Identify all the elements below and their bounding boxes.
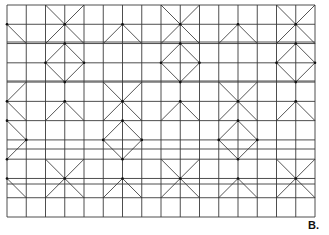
node-dot bbox=[294, 100, 297, 103]
diagonal-line bbox=[180, 63, 199, 82]
diagonal-line bbox=[277, 44, 296, 63]
diagonal-line bbox=[123, 121, 142, 140]
node-dot bbox=[294, 42, 297, 45]
node-dot bbox=[121, 177, 124, 180]
diagonal-line bbox=[219, 24, 238, 43]
diagonal-line bbox=[103, 178, 122, 197]
node-dot bbox=[6, 23, 9, 26]
node-dot bbox=[63, 100, 66, 103]
diagonal-line bbox=[296, 101, 315, 120]
diagonal-line bbox=[7, 82, 26, 101]
node-dot bbox=[63, 42, 66, 45]
node-dot bbox=[83, 62, 86, 65]
diagonal-line bbox=[65, 44, 84, 63]
tiling-diagram bbox=[0, 0, 329, 235]
node-dot bbox=[217, 139, 220, 142]
diagonal-line bbox=[219, 121, 238, 140]
node-dot bbox=[179, 23, 182, 26]
diagonal-line bbox=[238, 178, 257, 197]
node-dot bbox=[63, 81, 66, 84]
node-dot bbox=[121, 158, 124, 161]
diagonal-line bbox=[123, 140, 142, 159]
diagonal-line bbox=[123, 24, 142, 43]
node-dot bbox=[6, 100, 9, 103]
node-dot bbox=[198, 62, 201, 65]
node-dot bbox=[237, 158, 240, 161]
node-dot bbox=[160, 62, 163, 65]
diagonal-line bbox=[296, 63, 315, 82]
node-dot bbox=[6, 158, 9, 161]
node-dot bbox=[121, 100, 124, 103]
node-dot bbox=[179, 81, 182, 84]
node-dot bbox=[6, 177, 9, 180]
node-dot bbox=[140, 139, 143, 142]
node-dot bbox=[237, 100, 240, 103]
diagonal-line bbox=[219, 178, 238, 197]
node-dot bbox=[294, 23, 297, 26]
node-dot bbox=[179, 42, 182, 45]
node-dot bbox=[121, 23, 124, 26]
node-dot bbox=[63, 23, 66, 26]
diagonal-line bbox=[46, 63, 65, 82]
square-grid bbox=[7, 5, 315, 217]
diagonal-line bbox=[7, 140, 26, 159]
diagonal-line bbox=[238, 24, 257, 43]
node-dot bbox=[6, 119, 9, 122]
diagonal-line bbox=[219, 140, 238, 159]
diagonal-line bbox=[238, 121, 257, 140]
panel-label: B. bbox=[308, 219, 319, 231]
node-dot bbox=[294, 177, 297, 180]
node-dot bbox=[179, 177, 182, 180]
diagonal-line bbox=[103, 24, 122, 43]
node-dot bbox=[25, 139, 28, 142]
diagonal-line bbox=[277, 101, 296, 120]
node-dot bbox=[314, 62, 317, 65]
diagonal-line bbox=[161, 63, 180, 82]
diagonal-line bbox=[180, 101, 199, 120]
diagonal-line bbox=[7, 178, 26, 197]
diagonal-line bbox=[296, 44, 315, 63]
diagonal-line bbox=[277, 63, 296, 82]
node-dot bbox=[256, 139, 259, 142]
node-dot bbox=[275, 62, 278, 65]
diagonal-line bbox=[238, 140, 257, 159]
diagonal-line bbox=[161, 101, 180, 120]
node-dot bbox=[44, 62, 47, 65]
node-dot bbox=[121, 119, 124, 122]
diagonal-line bbox=[65, 63, 84, 82]
diagonal-line bbox=[65, 101, 84, 120]
node-dot bbox=[63, 177, 66, 180]
node-dot bbox=[102, 139, 105, 142]
diagonal-line bbox=[46, 44, 65, 63]
diagonal-line bbox=[103, 140, 122, 159]
node-dot bbox=[237, 177, 240, 180]
diagonal-line bbox=[7, 121, 26, 140]
diagonal-line bbox=[46, 101, 65, 120]
diagonal-line bbox=[103, 121, 122, 140]
diagonal-line bbox=[123, 178, 142, 197]
node-dot bbox=[294, 81, 297, 84]
node-dot bbox=[237, 119, 240, 122]
diagonal-line bbox=[161, 44, 180, 63]
node-dot bbox=[237, 23, 240, 26]
node-dot bbox=[179, 100, 182, 103]
diagonal-line bbox=[7, 101, 26, 120]
diagonal-line bbox=[180, 44, 199, 63]
diagonal-line bbox=[7, 24, 26, 43]
